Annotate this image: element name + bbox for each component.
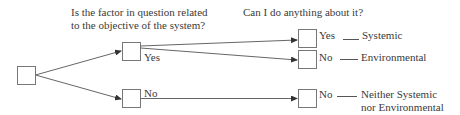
question-1-line-2: to the objective of the system?	[71, 19, 205, 32]
outcome-neither-line-1: Neither Systemic	[361, 88, 437, 101]
node-related-yes	[123, 43, 141, 61]
node-neither	[299, 90, 317, 108]
branch-label-neither-no: No	[319, 88, 332, 101]
edge-yes-to-environmental	[141, 48, 298, 60]
branch-label-related-no: No	[144, 87, 157, 100]
edge-root-to-no	[36, 75, 122, 99]
outcome-neither-line-2: nor Environmental	[361, 101, 444, 114]
branch-label-related-yes: Yes	[144, 51, 160, 64]
question-2: Can I do anything about it?	[243, 6, 363, 19]
question-1-line-1: Is the factor in question related	[71, 6, 208, 19]
node-related-no	[123, 90, 141, 108]
outcome-environmental: Environmental	[361, 51, 426, 64]
edge-yes-to-systemic	[141, 40, 298, 46]
edge-root-to-yes	[36, 51, 122, 75]
node-control-no	[299, 51, 317, 69]
node-control-yes	[299, 30, 317, 48]
branch-label-control-no: No	[319, 51, 332, 64]
branch-label-control-yes: Yes	[319, 29, 335, 42]
root-node	[18, 67, 36, 85]
outcome-systemic: Systemic	[362, 29, 402, 42]
